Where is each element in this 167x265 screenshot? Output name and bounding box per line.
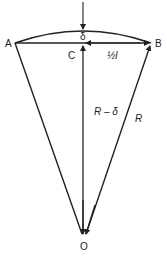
point-a-label: A: [5, 38, 12, 49]
ob-arrow-to-o: [86, 205, 95, 234]
r-minus-delta-label: R – δ: [94, 106, 118, 117]
sagitta-diagram: A B C O δ ½l R – δ R: [0, 0, 167, 265]
half-chord-label: ½l: [107, 50, 118, 61]
delta-label: δ: [80, 31, 86, 42]
radius-oa: [15, 43, 82, 234]
point-c-label: C: [68, 50, 75, 61]
point-o-label: O: [80, 241, 88, 252]
radius-ob: [86, 46, 150, 234]
point-b-label: B: [155, 38, 162, 49]
radius-label: R: [135, 113, 142, 124]
